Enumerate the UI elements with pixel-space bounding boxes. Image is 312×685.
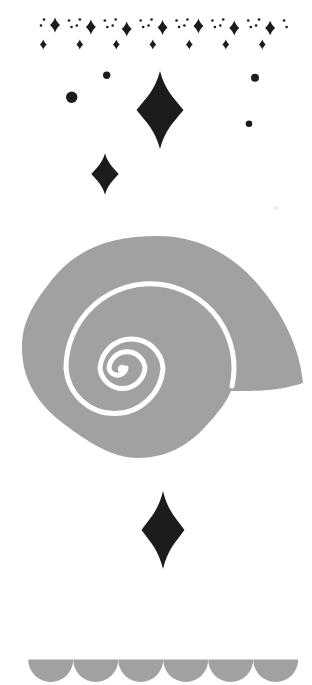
scallop-trim bbox=[28, 660, 298, 683]
scallop bbox=[163, 660, 208, 682]
border-tiny-dot bbox=[79, 18, 82, 21]
faint-speck bbox=[274, 206, 278, 210]
border-tiny-dot bbox=[211, 19, 214, 22]
scallop bbox=[28, 660, 73, 682]
border-tiny-dot bbox=[106, 26, 109, 29]
border-tiny-dot bbox=[70, 26, 73, 29]
scatter-dot bbox=[103, 72, 110, 79]
border-tiny-dot bbox=[114, 18, 117, 21]
scallop bbox=[118, 660, 163, 683]
border-small-diamond bbox=[186, 40, 193, 50]
bottom-star bbox=[142, 491, 185, 569]
border-tiny-dot bbox=[147, 24, 150, 27]
border-tiny-dot bbox=[214, 26, 217, 29]
border-tiny-dot bbox=[68, 19, 71, 22]
scallop bbox=[253, 660, 298, 683]
border-tiny-dot bbox=[285, 26, 288, 29]
shell-body bbox=[22, 236, 303, 458]
border-tiny-dot bbox=[283, 19, 286, 22]
border-small-diamond bbox=[222, 40, 229, 50]
shell-center-dot bbox=[118, 365, 126, 373]
border-medium-diamond bbox=[158, 20, 168, 35]
border-tiny-dot bbox=[76, 24, 79, 27]
border-tiny-dot bbox=[249, 26, 252, 29]
snail-illustration bbox=[0, 0, 312, 685]
border-tiny-dot bbox=[150, 18, 153, 21]
border-tiny-dot bbox=[255, 24, 258, 27]
border-small-diamond bbox=[76, 40, 83, 50]
border-tiny-dot bbox=[104, 19, 107, 22]
border-tiny-dot bbox=[247, 19, 250, 22]
scallop bbox=[208, 660, 253, 683]
border-tiny-dot bbox=[222, 18, 225, 21]
scatter-dot bbox=[246, 120, 253, 127]
border-small-diamond bbox=[149, 40, 156, 50]
large-star bbox=[137, 71, 184, 149]
medium-star bbox=[91, 153, 118, 195]
border-medium-diamond bbox=[50, 18, 60, 33]
border-tiny-dot bbox=[219, 24, 222, 27]
border-medium-diamond bbox=[193, 19, 203, 34]
border-medium-diamond bbox=[265, 21, 275, 36]
scallop bbox=[73, 660, 118, 682]
border-tiny-dot bbox=[186, 18, 189, 21]
border-tiny-dot bbox=[43, 18, 46, 21]
border-tiny-dot bbox=[142, 26, 145, 29]
border-medium-diamond bbox=[122, 22, 132, 37]
border-tiny-dot bbox=[258, 18, 261, 21]
border-medium-diamond bbox=[86, 20, 96, 35]
border-tiny-dot bbox=[139, 19, 142, 22]
scatter-dot bbox=[66, 92, 77, 103]
border-medium-diamond bbox=[229, 21, 239, 36]
border-small-diamond bbox=[113, 40, 120, 50]
illustration-canvas bbox=[0, 0, 312, 685]
border-small-diamond bbox=[259, 40, 266, 50]
scatter-dot bbox=[251, 74, 259, 82]
border-tiny-dot bbox=[175, 19, 178, 22]
border-tiny-dot bbox=[178, 26, 181, 29]
border-small-diamond bbox=[40, 40, 47, 50]
snail-shell bbox=[22, 236, 303, 458]
border-tiny-dot bbox=[111, 24, 114, 27]
border-tiny-dot bbox=[183, 24, 186, 27]
border-tiny-dot bbox=[40, 24, 43, 27]
sparkle-border bbox=[40, 18, 288, 50]
